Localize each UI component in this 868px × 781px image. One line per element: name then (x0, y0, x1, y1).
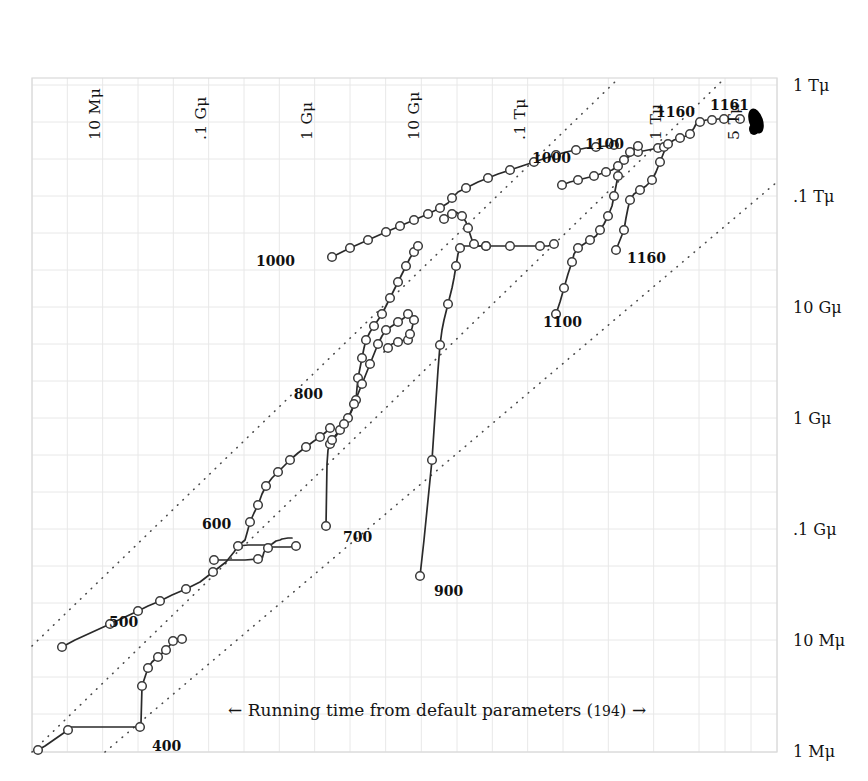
data-point-marker[interactable] (209, 568, 218, 577)
data-point-marker[interactable] (254, 501, 263, 510)
y-axis-tick-label: .1 Tμ (793, 187, 834, 206)
data-point-marker[interactable] (596, 226, 605, 235)
data-point-marker[interactable] (550, 240, 559, 249)
data-point-marker[interactable] (264, 544, 273, 553)
data-point-marker[interactable] (378, 310, 387, 319)
data-point-marker[interactable] (394, 318, 403, 327)
data-point-marker[interactable] (424, 210, 433, 219)
data-point-marker[interactable] (560, 284, 569, 293)
data-point-marker[interactable] (436, 341, 445, 350)
data-point-marker[interactable] (656, 158, 665, 167)
data-point-marker[interactable] (574, 176, 583, 185)
data-point-marker[interactable] (614, 172, 623, 181)
data-point-marker[interactable] (558, 181, 567, 190)
data-point-marker[interactable] (358, 354, 367, 363)
data-point-marker[interactable] (144, 664, 153, 673)
data-point-marker[interactable] (470, 240, 479, 249)
data-point-marker[interactable] (34, 746, 43, 755)
data-point-marker[interactable] (156, 597, 165, 606)
data-point-marker[interactable] (326, 424, 335, 433)
data-point-marker[interactable] (178, 635, 187, 644)
data-point-marker[interactable] (428, 456, 437, 465)
data-point-marker[interactable] (448, 194, 457, 203)
data-point-marker[interactable] (626, 196, 635, 205)
data-point-marker[interactable] (210, 556, 219, 565)
data-point-marker[interactable] (396, 222, 405, 231)
data-point-marker[interactable] (664, 140, 673, 149)
data-point-marker[interactable] (536, 242, 545, 251)
data-point-marker[interactable] (574, 244, 583, 253)
data-point-marker[interactable] (328, 253, 337, 262)
data-point-marker[interactable] (362, 336, 371, 345)
data-point-marker[interactable] (410, 216, 419, 225)
data-point-marker[interactable] (182, 585, 191, 594)
data-point-marker[interactable] (444, 300, 453, 309)
data-point-marker[interactable] (358, 380, 367, 389)
data-point-marker[interactable] (302, 443, 311, 452)
data-point-marker[interactable] (482, 242, 491, 251)
data-point-marker[interactable] (138, 682, 147, 691)
data-point-marker[interactable] (350, 400, 359, 409)
data-point-marker[interactable] (340, 420, 349, 429)
data-point-marker[interactable] (366, 360, 375, 369)
data-point-marker[interactable] (586, 236, 595, 245)
data-series-group (38, 119, 740, 750)
data-point-marker[interactable] (602, 168, 611, 177)
data-point-marker[interactable] (610, 192, 619, 201)
data-point-marker[interactable] (136, 723, 145, 732)
data-point-marker[interactable] (636, 186, 645, 195)
data-point-marker[interactable] (604, 212, 613, 221)
data-point-marker[interactable] (448, 210, 457, 219)
data-point-marker[interactable] (316, 433, 325, 442)
data-point-marker[interactable] (614, 162, 623, 171)
data-point-marker[interactable] (410, 316, 419, 325)
data-point-marker[interactable] (246, 518, 255, 527)
data-point-marker[interactable] (386, 294, 395, 303)
data-point-marker[interactable] (394, 338, 403, 347)
data-point-marker[interactable] (436, 204, 445, 213)
data-point-marker[interactable] (406, 330, 415, 339)
data-point-marker[interactable] (506, 242, 515, 251)
data-point-marker[interactable] (458, 212, 467, 221)
data-point-marker[interactable] (634, 142, 643, 151)
data-point-marker[interactable] (154, 653, 163, 662)
data-point-marker[interactable] (452, 262, 461, 271)
data-point-marker[interactable] (590, 172, 599, 181)
data-point-marker[interactable] (262, 482, 271, 491)
data-point-marker[interactable] (620, 226, 629, 235)
data-point-marker[interactable] (292, 542, 301, 551)
data-point-marker[interactable] (626, 148, 635, 157)
data-point-marker[interactable] (322, 522, 331, 531)
data-point-marker[interactable] (382, 228, 391, 237)
data-point-marker[interactable] (162, 646, 171, 655)
data-point-marker[interactable] (169, 637, 178, 646)
data-point-marker[interactable] (440, 215, 449, 224)
data-point-marker[interactable] (462, 184, 471, 193)
data-point-marker[interactable] (374, 340, 383, 349)
data-point-marker[interactable] (414, 242, 423, 251)
data-point-marker[interactable] (384, 344, 393, 353)
data-point-marker[interactable] (370, 322, 379, 331)
data-point-marker[interactable] (416, 572, 425, 581)
data-point-marker[interactable] (234, 542, 243, 551)
data-point-marker[interactable] (382, 326, 391, 335)
data-point-marker[interactable] (612, 246, 621, 255)
data-point-marker[interactable] (328, 436, 337, 445)
data-point-marker[interactable] (648, 176, 657, 185)
data-point-marker[interactable] (464, 224, 473, 233)
data-point-marker[interactable] (568, 258, 577, 267)
data-point-marker[interactable] (402, 262, 411, 271)
data-point-marker[interactable] (394, 278, 403, 287)
data-point-marker[interactable] (456, 244, 465, 253)
data-point-marker[interactable] (572, 146, 581, 155)
data-point-marker[interactable] (254, 555, 263, 564)
data-point-marker[interactable] (286, 456, 295, 465)
data-point-marker[interactable] (484, 174, 493, 183)
data-point-marker[interactable] (58, 643, 67, 652)
data-point-marker[interactable] (346, 244, 355, 253)
data-point-label: 900 (434, 583, 463, 599)
data-point-marker[interactable] (364, 236, 373, 245)
data-point-marker[interactable] (506, 166, 515, 175)
data-point-marker[interactable] (274, 468, 283, 477)
data-point-marker[interactable] (64, 726, 73, 735)
